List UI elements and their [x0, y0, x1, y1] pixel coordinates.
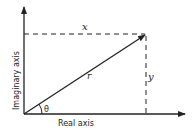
radius-vector — [24, 35, 145, 114]
angle-arc — [39, 104, 42, 114]
imaginary-axis-label: Imaginary axis — [12, 51, 21, 110]
x-component-label: x — [82, 21, 88, 32]
radius-label: r — [87, 71, 92, 81]
y-component-label: y — [147, 71, 154, 82]
real-axis-label: Real axis — [58, 119, 94, 128]
angle-label: θ — [44, 105, 49, 114]
complex-plane-diagram: x y r θ Real axis Imaginary axis — [0, 0, 195, 133]
